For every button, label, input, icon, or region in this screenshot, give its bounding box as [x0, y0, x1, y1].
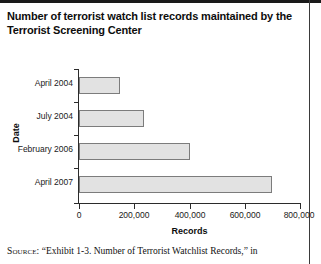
y-axis-tick [74, 102, 79, 103]
y-tick-label: April 2004 [35, 78, 73, 88]
y-tick-label: July 2004 [37, 111, 73, 121]
page-title: Number of terrorist watch list records m… [7, 9, 292, 37]
bar-row: April 2007 [79, 169, 300, 202]
page-margin-rule [309, 0, 310, 264]
bar-february-2006 [79, 143, 190, 160]
y-tick-label: February 2006 [18, 144, 73, 154]
source-text: “Exhibit 1-3. Number of Terrorist Watchl… [42, 246, 258, 256]
x-tick-label: 800,000 [284, 210, 315, 220]
bar-april-2007 [79, 176, 272, 193]
x-tick-label: 200,000 [119, 210, 150, 220]
bar-row: July 2004 [79, 103, 300, 136]
x-axis-tick [245, 204, 246, 209]
x-axis-tick [190, 204, 191, 209]
x-axis-title: Records [79, 226, 300, 236]
x-tick-label: 0 [77, 210, 82, 220]
bar-chart: Date April 2004 July 2004 February 2006 … [0, 46, 309, 242]
bar-row: April 2004 [79, 70, 300, 103]
source-label: Source: [7, 246, 39, 256]
y-axis-tick [74, 69, 79, 70]
x-axis-tick [300, 204, 301, 209]
figure-page: Number of terrorist watch list records m… [0, 0, 321, 264]
y-axis-tick [74, 168, 79, 169]
bar-april-2004 [79, 77, 120, 94]
page-top-rule [0, 0, 321, 3]
x-axis-tick [134, 204, 135, 209]
x-tick-label: 400,000 [175, 210, 206, 220]
source-note: Source: “Exhibit 1-3. Number of Terroris… [7, 246, 302, 256]
x-tick-label: 600,000 [230, 210, 261, 220]
bar-july-2004 [79, 110, 144, 127]
plot-area: April 2004 July 2004 February 2006 April… [79, 70, 300, 203]
bar-row: February 2006 [79, 136, 300, 169]
x-axis-tick [79, 204, 80, 209]
y-tick-label: April 2007 [35, 177, 73, 187]
y-axis-tick [74, 135, 79, 136]
